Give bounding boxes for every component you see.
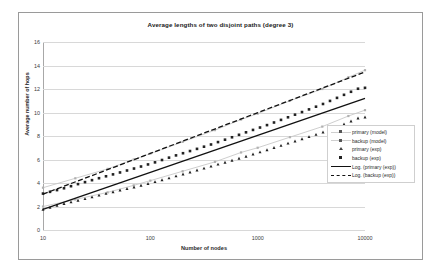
x-axis-title: Number of nodes	[43, 245, 365, 251]
legend-key-light-line-square-icon	[330, 137, 352, 145]
x-tick-label: 100	[146, 235, 155, 241]
plot-area	[43, 42, 365, 230]
y-tick-label: 4	[22, 180, 40, 186]
y-axis-title: Average number of hops	[24, 52, 30, 156]
series-log-backup-exp-	[43, 72, 365, 194]
x-tick-label: 10	[40, 235, 46, 241]
y-tick-label: 16	[22, 39, 40, 45]
legend-label: Log. (backup (exp))	[352, 171, 395, 179]
legend-label: primary (model)	[352, 128, 387, 136]
legend-key-light-line-square-icon	[330, 128, 352, 136]
legend-key-solid-line-icon	[330, 163, 352, 171]
legend-item[interactable]: Log. (backup (exp))	[330, 171, 412, 180]
y-tick-label: 6	[22, 157, 40, 163]
series-log-primary-exp-	[43, 98, 365, 209]
series-backup-exp-	[42, 87, 367, 195]
legend-item[interactable]: backup (exp)	[330, 154, 412, 163]
legend-item[interactable]: primary (exp)	[330, 145, 412, 154]
chart-container: Average lengths of two disjoint paths (d…	[18, 12, 423, 260]
x-axis-tick-labels: 10100100010000	[43, 235, 365, 245]
y-tick-label: 2	[22, 204, 40, 210]
legend-item[interactable]: Log. (primary (exp))	[330, 162, 412, 171]
legend-key-triangle-marker-icon	[330, 145, 352, 153]
y-tick-label: 0	[22, 227, 40, 233]
legend-label: backup (model)	[352, 137, 386, 145]
legend-key-square-marker-icon	[330, 154, 352, 162]
series-lines	[43, 42, 365, 230]
legend-item[interactable]: primary (model)	[330, 128, 412, 137]
x-tick-label: 10000	[358, 235, 373, 241]
legend-key-dashed-line-icon	[330, 171, 352, 179]
legend-label: primary (exp)	[352, 145, 381, 153]
legend-label: backup (exp)	[352, 154, 381, 162]
legend-label: Log. (primary (exp))	[352, 163, 396, 171]
legend-item[interactable]: backup (model)	[330, 137, 412, 146]
chart-title: Average lengths of two disjoint paths (d…	[19, 21, 422, 28]
series-backup-model-	[42, 69, 366, 189]
chart-legend: primary (model)backup (model)primary (ex…	[327, 125, 415, 183]
x-tick-label: 1000	[252, 235, 264, 241]
gridline	[43, 230, 365, 231]
